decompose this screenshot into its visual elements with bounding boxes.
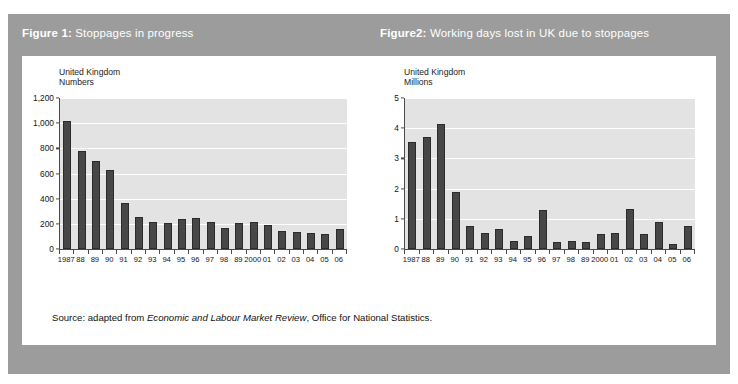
- y-axis-tick-label: 1,200: [29, 93, 54, 103]
- y-axis-tick-mark: [56, 198, 59, 199]
- figure2-title-rest: Working days lost in UK due to stoppages: [427, 27, 650, 39]
- x-axis-tick-mark: [549, 250, 550, 254]
- x-axis-tick-mark: [535, 250, 536, 254]
- bar: [495, 229, 503, 249]
- y-axis-tick-mark: [401, 188, 404, 189]
- bar: [655, 222, 663, 249]
- x-axis-tick-mark: [665, 250, 666, 254]
- y-axis-tick-mark: [401, 97, 404, 98]
- gridline: [405, 98, 695, 99]
- chart1-axis-caption: United Kingdom Numbers: [59, 68, 120, 87]
- source-prefix: Source: adapted from: [52, 312, 147, 323]
- x-axis-tick-label: 93: [148, 255, 156, 264]
- x-axis-tick-label: 90: [451, 255, 459, 264]
- y-axis-tick-label: 2: [391, 184, 399, 194]
- figure2-title: Figure2: Working days lost in UK due to …: [380, 27, 649, 39]
- y-axis-tick-mark: [401, 218, 404, 219]
- y-axis-tick-mark: [56, 223, 59, 224]
- x-axis-tick-label: 1987: [58, 255, 75, 264]
- x-axis-tick-label: 06: [683, 255, 691, 264]
- x-axis-tick-label: 04: [306, 255, 314, 264]
- bar: [78, 151, 86, 249]
- x-axis-tick-mark: [159, 250, 160, 254]
- x-axis-tick-mark: [303, 250, 304, 254]
- x-axis-tick-label: 95: [177, 255, 185, 264]
- x-axis-tick-label: 02: [625, 255, 633, 264]
- figure-panel: United Kingdom Numbers 02004006008001,00…: [22, 56, 716, 345]
- x-axis-tick-label: 94: [162, 255, 170, 264]
- x-axis-tick-mark: [332, 250, 333, 254]
- y-axis-tick-mark: [401, 158, 404, 159]
- gridline: [60, 123, 347, 124]
- x-axis-tick-label: 98: [220, 255, 228, 264]
- bar: [92, 161, 100, 249]
- source-note: Source: adapted from Economic and Labour…: [52, 312, 432, 323]
- bar: [293, 232, 301, 249]
- y-axis-tick-label: 800: [29, 143, 54, 153]
- x-axis-tick-mark: [419, 250, 420, 254]
- x-axis-tick-mark: [188, 250, 189, 254]
- x-axis-tick-mark: [578, 250, 579, 254]
- bar: [250, 222, 258, 249]
- y-axis-tick-mark: [56, 173, 59, 174]
- x-axis-tick-mark: [217, 250, 218, 254]
- x-axis-tick-mark: [246, 250, 247, 254]
- x-axis-tick-mark: [231, 250, 232, 254]
- x-axis-tick-mark: [145, 250, 146, 254]
- x-axis-tick-label: 2000: [244, 255, 261, 264]
- x-axis-tick-mark: [651, 250, 652, 254]
- gridline: [60, 224, 347, 225]
- figure1-title-lead: Figure 1:: [22, 27, 72, 39]
- y-axis-tick-label: 0: [391, 244, 399, 254]
- figure1-title-rest: Stoppages in progress: [72, 27, 194, 39]
- y-axis-tick-mark: [56, 148, 59, 149]
- chart2-axis-caption: United Kingdom Millions: [404, 68, 465, 87]
- bar: [221, 228, 229, 249]
- bar: [336, 229, 344, 249]
- x-axis-tick-mark: [593, 250, 594, 254]
- bar: [106, 170, 114, 249]
- y-axis-tick-label: 0: [29, 244, 54, 254]
- bar: [669, 244, 677, 249]
- y-axis-tick-mark: [56, 123, 59, 124]
- x-axis-tick-label: 06: [335, 255, 343, 264]
- bar: [626, 209, 634, 249]
- x-axis-tick-mark: [346, 250, 347, 254]
- x-axis-tick-label: 98: [567, 255, 575, 264]
- bar: [640, 234, 648, 249]
- x-axis-tick-label: 96: [538, 255, 546, 264]
- x-axis-tick-label: 01: [263, 255, 271, 264]
- x-axis-tick-mark: [274, 250, 275, 254]
- bar: [121, 203, 129, 249]
- gridline: [405, 128, 695, 129]
- bar: [466, 226, 474, 249]
- bar: [582, 242, 590, 249]
- bar: [423, 137, 431, 249]
- x-axis-tick-label: 88: [422, 255, 430, 264]
- x-axis-tick-label: 91: [465, 255, 473, 264]
- bar: [178, 219, 186, 249]
- x-axis-tick-mark: [622, 250, 623, 254]
- gridline: [60, 148, 347, 149]
- x-axis-tick-label: 88: [76, 255, 84, 264]
- x-axis-tick-mark: [491, 250, 492, 254]
- y-axis-tick-label: 4: [391, 123, 399, 133]
- x-axis-tick-label: 02: [277, 255, 285, 264]
- x-axis-tick-label: 89: [581, 255, 589, 264]
- x-axis-tick-label: 90: [105, 255, 113, 264]
- chart2-plot-area: [404, 98, 695, 250]
- bar: [192, 218, 200, 249]
- x-axis-tick-label: 89: [436, 255, 444, 264]
- bar: [321, 234, 329, 249]
- x-axis-tick-label: 04: [654, 255, 662, 264]
- figure1-title: Figure 1: Stoppages in progress: [22, 27, 194, 39]
- gridline: [60, 199, 347, 200]
- x-axis-tick-label: 01: [610, 255, 618, 264]
- y-axis-tick-mark: [401, 128, 404, 129]
- bar: [568, 241, 576, 249]
- x-axis-tick-label: 89: [91, 255, 99, 264]
- x-axis-tick-mark: [174, 250, 175, 254]
- bar: [437, 124, 445, 249]
- chart1-plot-area: [59, 98, 347, 250]
- source-suffix: , Office for National Statistics.: [306, 312, 432, 323]
